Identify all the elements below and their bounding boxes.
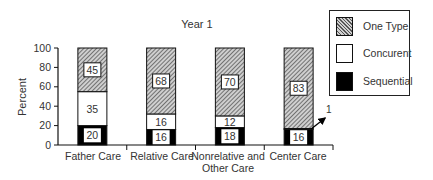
legend-label: One Type <box>363 20 408 32</box>
chart-title: Year 1 <box>160 18 234 30</box>
y-tick-label: 0 <box>45 139 51 151</box>
bars: 2035451616681812701683 <box>78 48 313 145</box>
y-tick-label: 80 <box>39 61 51 73</box>
white-swatch-icon <box>336 44 353 63</box>
y-axis-label: Percent <box>16 73 28 121</box>
hatched-swatch-icon <box>336 17 353 36</box>
value-label: 20 <box>87 129 99 141</box>
bar-nonrelative-and-other-care: 181270 <box>215 48 244 145</box>
x-label-center-care: Center Care <box>253 150 343 162</box>
legend-item-concurent: Concurent <box>336 43 411 63</box>
black-swatch-icon <box>336 72 353 91</box>
y-tick-label: 40 <box>39 100 51 112</box>
value-label: 35 <box>87 103 99 115</box>
value-label: 18 <box>224 130 236 142</box>
x-label-line-2: Other Care <box>183 162 273 174</box>
legend-item-sequential: Sequential <box>336 71 413 91</box>
legend-item-one-type: One Type <box>336 16 408 36</box>
value-label: 70 <box>224 76 236 88</box>
value-label: 45 <box>87 64 99 76</box>
value-label: 16 <box>155 116 167 128</box>
value-label: 68 <box>155 75 167 87</box>
legend-label: Sequential <box>363 75 413 87</box>
value-label: 16 <box>155 131 167 143</box>
value-label: 12 <box>224 116 236 128</box>
bar-center-care: 1683 <box>284 48 313 145</box>
legend-label: Concurent <box>363 47 411 59</box>
annotation-label: 1 <box>326 104 332 115</box>
legend: One Type Concurent Sequential <box>329 10 410 96</box>
bar-father-care: 203545 <box>78 48 107 145</box>
value-label: 83 <box>293 82 305 94</box>
value-label: 16 <box>293 131 305 143</box>
bar-relative-care: 161668 <box>147 48 176 145</box>
y-tick-label: 100 <box>33 42 51 54</box>
y-tick-label: 20 <box>39 119 51 131</box>
y-tick-label: 60 <box>39 80 51 92</box>
